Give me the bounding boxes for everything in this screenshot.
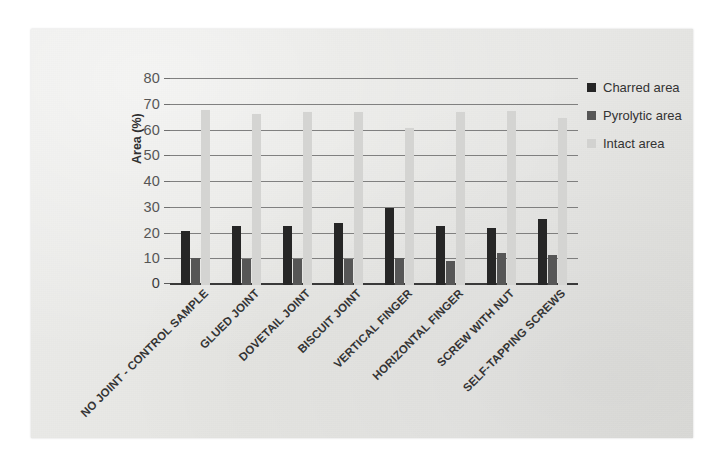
bar-intact: [303, 112, 312, 285]
bar-charred: [538, 219, 547, 285]
legend-item: Charred area: [587, 73, 707, 101]
legend-item: Pyrolytic area: [587, 101, 707, 129]
y-tick-label-70: 70: [143, 95, 160, 111]
legend-label: Charred area: [603, 80, 680, 95]
bar-pyrolytic: [344, 259, 353, 285]
bar-pyrolytic: [191, 258, 200, 285]
y-tick-label-80: 80: [143, 70, 160, 86]
bar-intact: [507, 111, 516, 285]
y-tick-label-30: 30: [143, 198, 160, 214]
x-axis-label: SELF-TAPPING SCREWS: [460, 287, 567, 394]
y-tick-label-0: 0: [152, 275, 160, 291]
x-axis-label: HORIZONTAL FINGER: [370, 287, 465, 382]
bar-group: [527, 79, 578, 285]
bar-charred: [385, 208, 394, 285]
legend-item: Intact area: [587, 129, 707, 157]
bar-pyrolytic: [242, 259, 251, 285]
bar-groups: [170, 79, 578, 285]
bar-pyrolytic: [446, 261, 455, 285]
bar-group: [221, 79, 272, 285]
y-tick-label-10: 10: [143, 250, 160, 266]
legend-label: Intact area: [603, 136, 664, 151]
chart-panel: Area (%) 01020304050607080 NO JOINT - CO…: [31, 29, 693, 438]
bar-pyrolytic: [497, 253, 506, 285]
bar-intact: [456, 112, 465, 285]
legend-label: Pyrolytic area: [603, 108, 682, 123]
bar-charred: [232, 226, 241, 285]
bar-charred: [487, 228, 496, 285]
bar-group: [170, 79, 221, 285]
y-tick-label-60: 60: [143, 121, 160, 137]
y-tick-label-50: 50: [143, 147, 160, 163]
y-tick-label-20: 20: [143, 224, 160, 240]
legend-swatch-pyrolytic-icon: [587, 111, 596, 120]
bar-charred: [283, 226, 292, 285]
legend-swatch-charred-icon: [587, 83, 596, 92]
bar-intact: [354, 112, 363, 285]
bar-charred: [334, 223, 343, 285]
bar-group: [374, 79, 425, 285]
y-axis-title: Area (%): [130, 144, 144, 164]
x-axis-label: NO JOINT - CONTROL SAMPLE: [78, 287, 210, 419]
bar-group: [323, 79, 374, 285]
bar-pyrolytic: [395, 258, 404, 285]
bar-intact: [201, 110, 210, 285]
bar-group: [476, 79, 527, 285]
chart-legend: Charred areaPyrolytic areaIntact area: [587, 73, 707, 157]
bar-pyrolytic: [548, 255, 557, 285]
bar-intact: [558, 118, 567, 285]
scanned-page: Area (%) 01020304050607080 NO JOINT - CO…: [0, 0, 725, 454]
bar-intact: [405, 128, 414, 285]
bar-intact: [252, 114, 261, 285]
bar-pyrolytic: [293, 259, 302, 285]
bar-charred: [181, 231, 190, 285]
bar-group: [425, 79, 476, 285]
plot-area: 01020304050607080: [170, 79, 578, 285]
y-tick-label-40: 40: [143, 173, 160, 189]
bar-charred: [436, 226, 445, 285]
legend-swatch-intact-icon: [587, 139, 596, 148]
x-axis-labels: NO JOINT - CONTROL SAMPLEGLUED JOINTDOVE…: [170, 287, 578, 437]
bar-group: [272, 79, 323, 285]
